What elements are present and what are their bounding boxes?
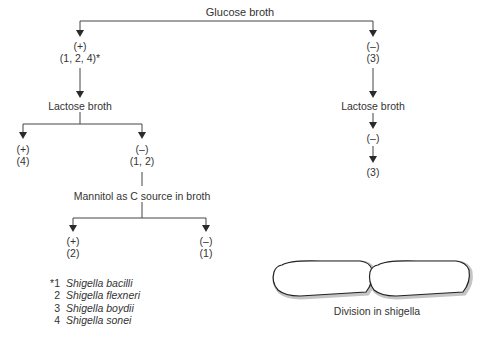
arrow-down-icon [369,91,377,98]
glucose-split-line [80,21,373,35]
mannitol-negative-species: (1) [200,247,213,259]
lactose-positive-result: (+) [16,143,29,155]
legend-number: 2 [48,289,60,301]
legend-species-name: Shigella flexneri [66,289,140,301]
arrow-down-icon [138,132,146,139]
legend-species-name: Shigella sonei [66,314,131,326]
arrow-down-icon [202,225,210,232]
legend-species-name: Shigella bacilli [66,277,133,289]
species-legend: *1 Shigella bacilli 2 Shigella flexneri … [48,277,140,326]
glucose-negative-result: (–) [367,40,380,52]
legend-item: 4 Shigella sonei [48,314,140,326]
right-lactose-test-label: Lactose broth [341,100,405,112]
arrow-down-icon [76,91,84,98]
lactose-negative-result: (–) [136,143,149,155]
right-lactose-result: (–) [367,132,380,144]
right-lactose-species: (3) [367,166,380,178]
lactose-negative-species: (1, 2) [130,155,155,167]
arrow-down-icon [369,30,377,37]
left-lactose-test-label: Lactose broth [48,100,112,112]
mannitol-negative-result: (–) [200,235,213,247]
mannitol-positive-result: (+) [66,235,79,247]
mannitol-test-label: Mannitol as C source in broth [74,190,211,202]
legend-item: 3 Shigella boydii [48,302,140,314]
arrow-down-icon [69,225,77,232]
arrow-down-icon [76,30,84,37]
legend-number: 3 [48,302,60,314]
shigella-cells-illustration [273,261,471,298]
glucose-positive-species: (1, 2, 4)* [60,52,100,64]
legend-number: *1 [48,277,60,289]
legend-species-name: Shigella boydii [66,302,134,314]
illustration-caption: Division in shigella [334,305,420,317]
mannitol-positive-species: (2) [67,247,80,259]
root-test-label: Glucose broth [206,6,274,18]
legend-number: 4 [48,314,60,326]
legend-item: 2 Shigella flexneri [48,289,140,301]
arrow-down-icon [369,156,377,163]
glucose-negative-species: (3) [367,52,380,64]
arrow-down-icon [19,132,27,139]
lactose-positive-species: (4) [17,155,30,167]
arrow-down-icon [369,122,377,129]
glucose-positive-result: (+) [73,40,86,52]
legend-item: *1 Shigella bacilli [48,277,140,289]
